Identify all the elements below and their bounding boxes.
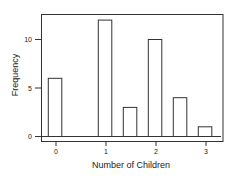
- bar-2: [148, 40, 162, 137]
- x-axis-title: Number of Children: [92, 160, 170, 170]
- x-tick-label: 3: [204, 148, 208, 155]
- x-tick-label: 0: [54, 148, 58, 155]
- y-axis: 0510: [24, 36, 41, 140]
- x-tick-label: 1: [104, 148, 108, 155]
- frequency-bar-chart: 0510 0123 Number of Children Frequency: [0, 0, 232, 179]
- y-axis-title: Frequency: [10, 53, 20, 96]
- bar-1.5: [123, 107, 137, 136]
- x-axis: 0123: [54, 142, 208, 156]
- y-tick-label: 5: [28, 85, 32, 92]
- y-tick-label: 0: [28, 133, 32, 140]
- bar-0: [48, 78, 62, 136]
- bar-3: [198, 127, 212, 137]
- x-tick-label: 2: [154, 148, 158, 155]
- y-tick-label: 10: [24, 36, 32, 43]
- bars-group: [48, 20, 212, 136]
- bar-1: [98, 20, 112, 136]
- bar-2.5: [173, 98, 187, 137]
